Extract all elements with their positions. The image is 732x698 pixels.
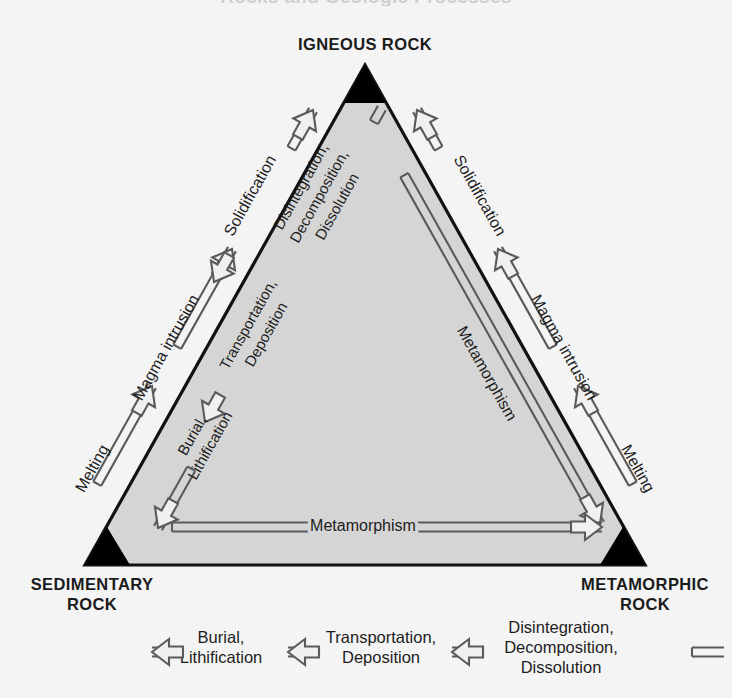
- outer-left-melting-label: Melting: [72, 442, 112, 495]
- outer-right-solidification-label: Solidification: [451, 152, 510, 239]
- corner-label-igneous: IGNEOUS ROCK: [298, 35, 432, 53]
- corner-label-metamorphic-line2: ROCK: [620, 595, 670, 613]
- outer-left-solidification-label: Solidification: [220, 152, 279, 239]
- bottom-row-group1-line1: Burial,: [198, 628, 245, 646]
- rock-cycle-triangle: [85, 65, 645, 565]
- bottom-row-tail-stub: [692, 648, 724, 657]
- bottom-row-arrow-1: [152, 639, 183, 665]
- bottom-row-flow-group: Disintegration, Decomposition, Dissoluti…: [152, 618, 724, 676]
- bottom-row-group2-line1: Transportation,: [326, 628, 436, 646]
- rock-cycle-diagram: Melting Magma intrusion Solidification: [0, 0, 732, 698]
- corner-label-sedimentary-line2: ROCK: [67, 595, 117, 613]
- rock-cycle-figure: Rocks and Geologic Processes: [0, 0, 732, 698]
- vertex-marker-igneous: [344, 65, 386, 103]
- bottom-row-group3-line2: Decomposition,: [504, 638, 618, 656]
- corner-label-metamorphic-line1: METAMORPHIC: [581, 575, 709, 593]
- bottom-row-group3-line3: Dissolution: [521, 658, 602, 676]
- bottom-row-group2-line2: Deposition: [342, 648, 420, 666]
- bottom-row-group1-line2: Lithification: [180, 648, 263, 666]
- bottom-row-arrow-3: [452, 639, 483, 665]
- bottom-row-group3-line1: Disintegration,: [508, 618, 613, 636]
- corner-label-sedimentary-line1: SEDIMENTARY: [31, 575, 154, 593]
- bottom-row-arrow-2: [288, 639, 319, 665]
- inner-bottom-metamorphism-label: Metamorphism: [310, 517, 416, 534]
- outer-right-melting-label: Melting: [618, 442, 658, 495]
